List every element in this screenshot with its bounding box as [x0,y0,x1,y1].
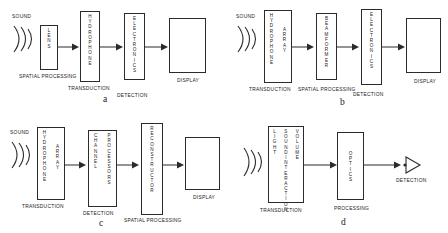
sound-wave-icon [234,22,260,56]
caption-spatial-processing-a: SPATIAL PROCESSING [19,74,77,79]
block-channel-label: CHANNEL [94,134,97,170]
block-hydrophone-label: HYDROPHONE [43,131,47,183]
caption-detection-b: DETECTION [353,92,384,97]
block-hydrophone-array[interactable]: HYDROPHONE ARRAY [37,127,65,200]
caption-detection-d: DETECTION [396,178,427,183]
caption-spatial-processing-b: SPATIAL PROCESSING [298,87,356,92]
block-electronics[interactable]: ELECTRONICS [361,9,382,85]
caption-transduction-a: TRANSDUCTION [68,86,110,91]
block-array-label: ARRAY [56,131,59,171]
caption-display-b: DISPLAY [414,79,436,84]
sound-label-c: SOUND [10,130,29,135]
block-display[interactable] [406,18,441,73]
caption-transduction-c: TRANSDUCTION [22,204,64,209]
block-optics[interactable]: OPTICS [337,132,364,200]
block-processors-label: PROCESSORS [107,134,111,186]
block-display[interactable] [185,137,220,190]
panel-d: LIGHT SOUND INTERACTION VOLUME TRANSDUCT… [224,117,448,233]
block-electronics-label: ELECTRONICS [133,17,137,74]
block-lens[interactable]: LENS [40,25,58,70]
caption-detection-c: DETECTION [83,211,114,216]
panel-letter-d: d [341,217,346,227]
caption-display-a: DISPLAY [177,78,199,83]
block-channel-processors[interactable]: CHANNEL PROCESSORS [88,130,117,207]
panel-letter-a: a [103,94,107,104]
caption-spatial-processing-c: SPATIAL PROCESSING [124,218,182,223]
block-beamformer-label: BEAMFORMER [325,17,329,69]
caption-detection-a: DETECTION [117,93,148,98]
caption-transduction-d: TRANSDUCTION [260,208,302,213]
block-lens-label: LENS [47,29,50,50]
block-hydrophone-array[interactable]: HYDROPHONE ARRAY [264,10,292,83]
caption-display-c: DISPLAY [193,195,215,200]
block-beamformer[interactable]: BEAMFORMER [316,13,337,80]
arrow-right-icon [337,42,360,52]
block-reconstructor-label: RECONSTRUCTOR [150,127,154,194]
sound-label-a: SOUND [12,14,31,19]
panel-c: SOUND HYDROPHONE ARRAY TRANSDUCTION CHAN… [0,117,224,233]
block-optics-label: OPTICS [349,136,353,183]
figure-canvas: SOUND LENS SPATIAL PROCESSING HYDROPHONE… [0,0,448,233]
block-hydrophone-label: HYDROPHONE [270,14,274,66]
block-sound-interaction-label: SOUND INTERACTION [284,130,288,213]
panel-letter-b: b [340,97,345,107]
block-display[interactable] [169,18,206,73]
block-electronics-label: ELECTRONICS [370,13,374,70]
arrow-right-icon [292,42,315,52]
block-array-label: ARRAY [283,14,286,54]
arrow-right-icon [58,42,80,52]
block-light-label: LIGHT [273,130,277,156]
block-electronics[interactable]: ELECTRONICS [124,13,145,80]
sound-wave-icon [8,138,34,172]
sound-wave-icon [10,22,36,56]
arrow-right-icon [382,42,406,52]
panel-letter-c: c [99,218,103,228]
arrow-right-icon [304,160,338,170]
block-reconstructor[interactable]: RECONSTRUCTOR [141,123,163,215]
block-hydrophone[interactable]: HYDROPHONE [80,11,100,82]
arrow-right-icon [145,42,169,52]
arrow-right-icon [65,160,87,170]
arrow-right-icon [117,160,140,170]
caption-processing-d: PROCESSING [334,206,369,211]
sound-label-b: SOUND [236,14,255,19]
detector-triangle-icon[interactable] [402,154,424,176]
block-light-sound-interaction-volume[interactable]: LIGHT SOUND INTERACTION VOLUME [268,126,304,203]
sound-wave-icon [240,144,266,180]
panel-a: SOUND LENS SPATIAL PROCESSING HYDROPHONE… [0,0,224,117]
arrow-right-icon [163,160,185,170]
arrow-right-icon [100,42,124,52]
panel-b: SOUND HYDROPHONE ARRAY TRANSDUCTION BEAM… [224,0,448,117]
block-hydrophone-label: HYDROPHONE [88,15,92,67]
arrow-right-icon [364,160,402,170]
caption-transduction-b: TRANSDUCTION [249,87,291,92]
block-volume-label: VOLUME [295,130,299,161]
